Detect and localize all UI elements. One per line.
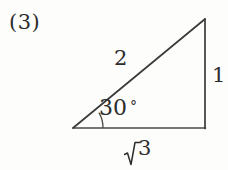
base-length-label: 3 bbox=[124, 138, 151, 159]
figure-container: (3) 2 1 30° 3 bbox=[0, 0, 228, 170]
angle-value: 30 bbox=[99, 95, 127, 120]
radical-sign-icon bbox=[124, 140, 140, 166]
triangle-hypotenuse-line bbox=[73, 19, 205, 128]
vertical-side-length-label: 1 bbox=[212, 65, 225, 86]
radicand-value: 3 bbox=[138, 138, 151, 159]
problem-number-label: (3) bbox=[9, 12, 40, 33]
square-root-expression: 3 bbox=[124, 138, 151, 159]
degree-symbol: ° bbox=[130, 98, 137, 114]
angle-label: 30° bbox=[99, 97, 137, 119]
hypotenuse-length-label: 2 bbox=[114, 48, 127, 69]
